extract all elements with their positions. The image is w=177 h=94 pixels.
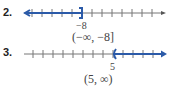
number-line-3 (24, 49, 167, 59)
shaded-ray-left (25, 8, 82, 18)
number-line-2 (24, 8, 166, 18)
shaded-ray-right (113, 49, 163, 59)
number-lines (0, 0, 177, 94)
